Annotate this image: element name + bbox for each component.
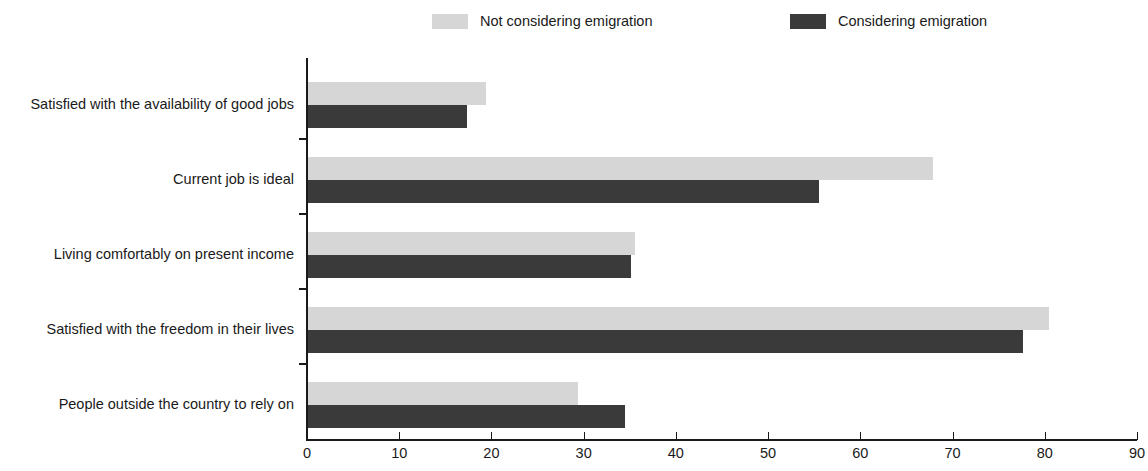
value-axis-tick bbox=[307, 432, 308, 440]
category-axis-tick bbox=[299, 363, 307, 365]
value-axis-tick-label: 10 bbox=[391, 445, 407, 461]
value-axis-tick bbox=[768, 432, 769, 440]
bar-not-considering-emigration bbox=[308, 82, 486, 105]
value-axis-tick-label: 0 bbox=[303, 445, 311, 461]
value-axis-tick-label: 60 bbox=[852, 445, 868, 461]
value-axis-line bbox=[306, 439, 1137, 441]
bar-considering-emigration bbox=[308, 105, 467, 128]
value-axis-tick-label: 90 bbox=[1129, 445, 1145, 461]
bar-not-considering-emigration bbox=[308, 157, 933, 180]
bar-considering-emigration bbox=[308, 180, 819, 203]
category-label: Current job is ideal bbox=[173, 171, 294, 187]
category-label: Satisfied with the freedom in their live… bbox=[47, 321, 294, 337]
value-axis-tick bbox=[584, 432, 585, 440]
bar-not-considering-emigration bbox=[308, 232, 635, 255]
value-axis-tick-label: 20 bbox=[483, 445, 499, 461]
value-axis-tick bbox=[860, 432, 861, 440]
value-axis-tick-label: 30 bbox=[576, 445, 592, 461]
bar-considering-emigration bbox=[308, 255, 631, 278]
value-axis-tick bbox=[1137, 432, 1138, 440]
bar-considering-emigration bbox=[308, 405, 625, 428]
value-axis-tick bbox=[676, 432, 677, 440]
category-axis-tick bbox=[299, 288, 307, 290]
category-label: Satisfied with the availability of good … bbox=[30, 96, 294, 112]
category-label: People outside the country to rely on bbox=[59, 396, 294, 412]
value-axis-tick bbox=[953, 432, 954, 440]
value-axis-tick bbox=[491, 432, 492, 440]
category-axis-tick bbox=[299, 138, 307, 140]
category-axis-tick bbox=[299, 213, 307, 215]
value-axis-tick bbox=[399, 432, 400, 440]
plot-area: 0102030405060708090 Satisfied with the a… bbox=[0, 0, 1148, 471]
bar-not-considering-emigration bbox=[308, 382, 578, 405]
value-axis-tick bbox=[1045, 432, 1046, 440]
bar-not-considering-emigration bbox=[308, 307, 1049, 330]
value-axis-tick-label: 80 bbox=[1037, 445, 1053, 461]
bar-considering-emigration bbox=[308, 330, 1023, 353]
category-label: Living comfortably on present income bbox=[54, 246, 294, 262]
value-axis-tick-label: 40 bbox=[668, 445, 684, 461]
value-axis-tick-label: 70 bbox=[944, 445, 960, 461]
bar-chart: Not considering emigration Considering e… bbox=[0, 0, 1148, 471]
value-axis-tick-label: 50 bbox=[760, 445, 776, 461]
